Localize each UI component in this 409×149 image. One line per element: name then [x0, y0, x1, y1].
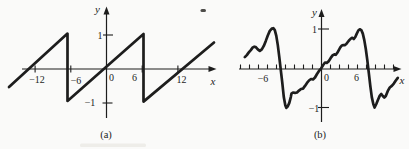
- graph-a-sawtooth: −12−606121−1: [9, 7, 217, 119]
- caption-a: (a): [100, 129, 112, 141]
- y-axis-arrow: [319, 9, 325, 17]
- x-axis-letter-b: x: [399, 74, 405, 86]
- x-tick-label: 12: [177, 74, 187, 85]
- scanned-figure-page: −12−606121−1 −6061−1 y x y x (a) (b): [0, 0, 409, 149]
- scan-speck: [201, 9, 207, 12]
- y-axis-letter-a: y: [94, 3, 100, 15]
- y-tick-label: −1: [85, 97, 96, 108]
- sawtooth-curve: [9, 34, 214, 102]
- y-tick-label: 1: [98, 30, 103, 41]
- x-axis-arrow: [394, 66, 402, 72]
- x-tick-label: −6: [258, 73, 269, 84]
- y-axis-letter-b: y: [311, 6, 317, 18]
- y-axis-arrow: [104, 7, 110, 15]
- x-axis-letter-a: x: [210, 75, 216, 87]
- caption-b: (b): [314, 129, 327, 141]
- x-tick-label: 0: [324, 72, 329, 83]
- scan-speck: [80, 144, 146, 148]
- x-axis-arrow: [209, 66, 217, 72]
- graph-b-sawtooth-approximation: −6061−1: [239, 9, 402, 122]
- x-tick-label: −12: [29, 74, 45, 85]
- y-tick-label: −1: [309, 103, 320, 114]
- x-tick-label: −6: [71, 75, 82, 86]
- x-tick-label: 0: [109, 72, 114, 83]
- x-tick-label: 6: [132, 72, 137, 83]
- figure-svg: −12−606121−1 −6061−1 y x y x (a) (b): [0, 0, 409, 149]
- x-tick-label: 6: [354, 72, 359, 83]
- y-tick-label: 1: [312, 24, 317, 35]
